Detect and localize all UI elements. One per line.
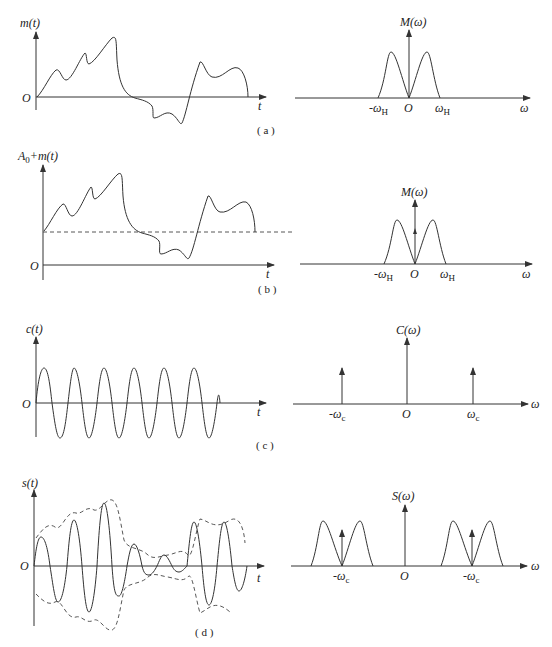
neg-omega-h-label: -ωH xyxy=(369,101,388,117)
neg-omega-c-label: -ωc xyxy=(333,569,349,585)
origin-label: O xyxy=(22,91,31,105)
spectrum-label: S(ω) xyxy=(392,489,414,503)
neg-omega-c-label: -ωc xyxy=(329,407,345,423)
origin-label: O xyxy=(22,397,31,411)
y-axis-label: A0+m(t) xyxy=(17,149,58,165)
panel-a-time-plot: m(t) O t ( a ) xyxy=(20,16,275,137)
omega-axis-label: ω xyxy=(522,267,530,281)
panel-c-spectrum-plot: C(ω) -ωc O ωc ω xyxy=(293,323,539,423)
y-axis-label: m(t) xyxy=(20,16,40,30)
panel-b-time-plot: A0+m(t) O t ( b ) xyxy=(17,149,294,296)
message-signal-curve xyxy=(37,37,248,123)
neg-omega-h-label: -ωH xyxy=(374,267,393,283)
origin-label: O xyxy=(410,267,419,281)
am-modulation-figure: m(t) O t ( a ) M(ω) -ωH O ωH ω A0+m(t) O… xyxy=(0,0,552,647)
panel-caption: ( a ) xyxy=(257,124,275,137)
x-axis-label: t xyxy=(257,571,261,585)
panel-a-spectrum-plot: M(ω) -ωH O ωH ω xyxy=(295,15,530,117)
y-axis-label: s(t) xyxy=(22,476,38,490)
spectrum-label: C(ω) xyxy=(396,323,420,337)
omega-h-label: ωH xyxy=(435,101,450,117)
origin-label: O xyxy=(402,407,411,421)
panel-caption: ( c ) xyxy=(256,439,274,452)
panel-b-spectrum-plot: M(ω) -ωH O ωH ω xyxy=(300,185,532,283)
spectrum-label: M(ω) xyxy=(400,185,427,199)
omega-c-label: -ωc xyxy=(463,569,479,585)
panel-caption: ( b ) xyxy=(258,283,277,296)
y-axis-label: c(t) xyxy=(26,322,43,336)
dc-impulse-arrow-icon xyxy=(413,228,417,234)
origin-label: O xyxy=(404,101,413,115)
origin-label: O xyxy=(20,559,29,573)
origin-label: O xyxy=(30,259,39,273)
omega-axis-label: ω xyxy=(520,101,528,115)
x-axis-label: t xyxy=(257,405,261,419)
omega-axis-label: ω xyxy=(531,559,539,573)
spectrum-label: M(ω) xyxy=(399,15,426,29)
am-modulated-signal-curve xyxy=(34,503,247,612)
panel-d-time-plot: s(t) O t ( d ) xyxy=(20,476,264,639)
omega-h-label: ωH xyxy=(440,267,455,283)
omega-axis-label: ω xyxy=(531,397,539,411)
origin-label: O xyxy=(400,569,409,583)
panel-caption: ( d ) xyxy=(195,626,214,639)
omega-c-label: ωc xyxy=(467,407,479,423)
x-axis-label: t xyxy=(258,99,262,113)
upper-envelope-curve xyxy=(36,500,245,558)
panel-c-time-plot: c(t) O t ( c ) xyxy=(22,322,274,452)
offset-message-signal-curve xyxy=(44,173,255,258)
x-axis-label: t xyxy=(266,267,270,281)
panel-d-spectrum-plot: S(ω) -ωc O -ωc ω xyxy=(291,489,539,585)
